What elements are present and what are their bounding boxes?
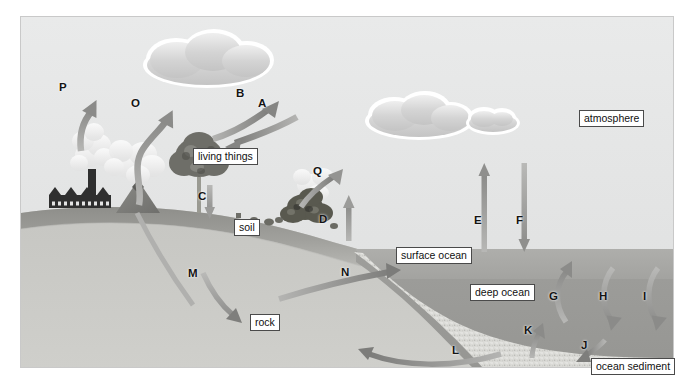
cloud-large-icon — [143, 29, 274, 88]
arrow-D — [343, 195, 355, 241]
flux-letter-E: E — [474, 214, 482, 226]
flux-letter-G: G — [549, 290, 558, 302]
label-atmosphere: atmosphere — [579, 110, 644, 127]
flux-letter-M: M — [188, 267, 198, 279]
flux-letter-L: L — [452, 344, 459, 356]
label-surface-ocean: surface ocean — [396, 247, 472, 264]
flux-letter-C: C — [198, 190, 206, 202]
flux-letter-D: D — [319, 213, 327, 225]
flux-letter-I: I — [643, 290, 646, 302]
flux-letter-K: K — [524, 324, 532, 336]
label-soil: soil — [234, 219, 260, 236]
flux-letter-N: N — [341, 266, 349, 278]
flux-letter-O: O — [131, 97, 140, 109]
diagram-graphics — [21, 17, 674, 368]
label-ocean-sediment: ocean sediment — [591, 358, 675, 375]
label-living-things: living things — [193, 148, 258, 165]
label-rock: rock — [250, 314, 280, 331]
flux-letter-H: H — [599, 290, 607, 302]
label-deep-ocean: deep ocean — [470, 284, 535, 301]
flux-letter-P: P — [59, 81, 67, 93]
cloud-right-icon — [365, 91, 473, 140]
flux-letter-B: B — [236, 87, 244, 99]
cloud-small-icon — [466, 107, 520, 135]
carbon-cycle-figure: living things atmosphere soil rock surfa… — [0, 0, 694, 388]
cropped-title-strip — [0, 0, 694, 8]
arrow-F — [519, 163, 531, 252]
flux-letter-A: A — [258, 97, 266, 109]
flux-letter-J: J — [581, 339, 587, 351]
flux-letter-F: F — [516, 214, 523, 226]
flux-letter-Q: Q — [313, 165, 322, 177]
diagram-scene — [20, 16, 674, 368]
volcano-icon — [104, 140, 165, 213]
arrow-E — [479, 163, 491, 252]
